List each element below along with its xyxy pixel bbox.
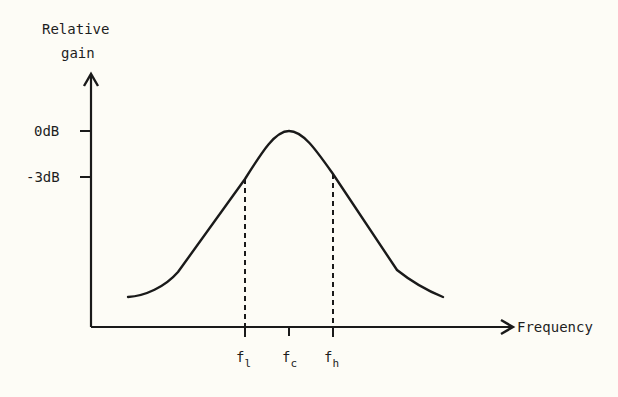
y-tick-label-minus3db: -3dB [26,170,60,184]
y-axis-label-line2: gain [61,46,95,60]
subscript-c: c [290,357,297,370]
x-tick-label-f-low: fl [236,350,251,364]
y-tick-label-0db: 0dB [34,124,59,138]
x-axis-label: Frequency [517,320,593,334]
subscript-l: l [244,357,251,370]
response-curve [128,131,443,297]
x-tick-label-f-center: fc [282,350,297,364]
x-tick-label-f-high: fh [324,350,339,364]
subscript-h: h [332,357,339,370]
y-axis-label-line1: Relative [42,22,109,36]
